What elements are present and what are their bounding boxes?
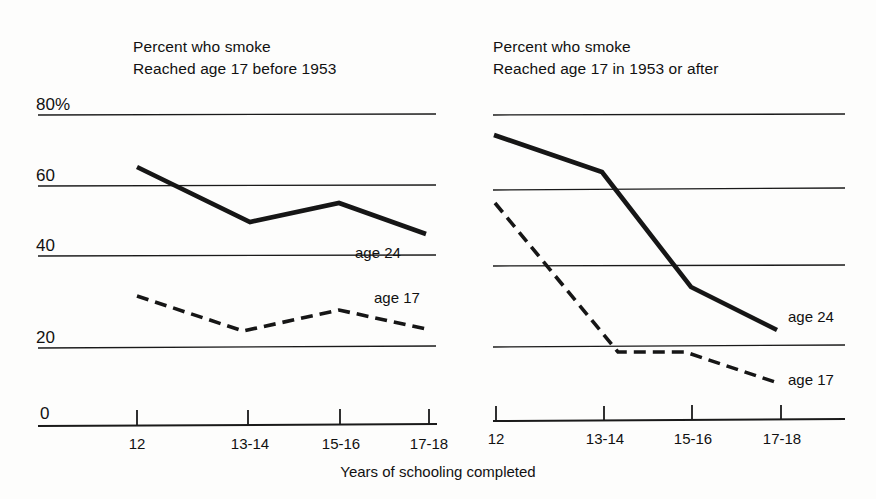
series-right-age17-label: age 17 (788, 371, 834, 388)
gridline-right-20 (493, 345, 845, 347)
panel-right: Percent who smoke Reached age 17 in 1953… (488, 38, 845, 447)
xtick-label-left-13-14: 13-14 (231, 435, 269, 452)
xtick-label-right-17-18: 17-18 (763, 430, 801, 447)
xaxis-caption: Years of schooling completed (340, 463, 535, 480)
panel-left: Percent who smoke Reached age 17 before … (36, 38, 448, 452)
chart-figure: Percent who smoke Reached age 17 before … (0, 0, 876, 499)
gridline-left-20 (38, 346, 436, 348)
panel-left-title-line2: Reached age 17 before 1953 (133, 60, 336, 77)
series-right-age24-label: age 24 (788, 308, 834, 325)
series-left-age24-label: age 24 (355, 244, 401, 261)
gridline-right-80 (493, 114, 845, 115)
series-right-age24-line (494, 135, 777, 330)
panel-right-title-line2: Reached age 17 in 1953 or after (493, 60, 718, 77)
ytick-label-left-60: 60 (36, 166, 55, 185)
series-left-age24-line (137, 167, 426, 234)
ytick-label-left-80: 80% (36, 95, 70, 114)
gridline-left-80 (38, 114, 436, 115)
xaxis-left (38, 424, 437, 426)
panel-right-title-line1: Percent who smoke (493, 38, 631, 55)
ytick-label-left-20: 20 (36, 328, 55, 347)
ytick-label-left-0: 0 (40, 404, 49, 423)
ytick-label-left-40: 40 (36, 236, 55, 255)
xtick-label-right-13-14: 13-14 (586, 430, 624, 447)
xtick-label-left-15-16: 15-16 (322, 435, 360, 452)
series-left-age17-label: age 17 (374, 289, 420, 306)
chart-canvas: Percent who smoke Reached age 17 before … (0, 0, 876, 499)
xtick-label-right-15-16: 15-16 (674, 430, 712, 447)
xaxis-right (493, 419, 845, 421)
series-right-age17-line (495, 203, 778, 383)
panel-left-title-line1: Percent who smoke (133, 38, 271, 55)
xtick-label-left-17-18: 17-18 (410, 435, 448, 452)
xtick-label-left-12: 12 (129, 435, 146, 452)
gridline-right-60 (493, 188, 845, 190)
gridline-left-60 (38, 185, 436, 186)
xtick-label-right-12: 12 (488, 430, 505, 447)
